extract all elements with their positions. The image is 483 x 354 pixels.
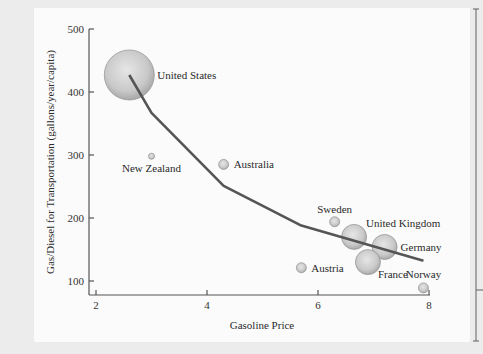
data-point-australia	[219, 159, 229, 169]
x-axis-title: Gasoline Price	[230, 319, 295, 331]
point-label: United States	[157, 69, 216, 81]
point-label: Germany	[401, 241, 442, 253]
data-point-united-kingdom	[342, 224, 367, 249]
y-ticks: 100200300400500	[68, 23, 95, 287]
point-label: France	[378, 268, 408, 280]
point-label: Austria	[311, 262, 344, 274]
x-tick-label: 2	[93, 299, 99, 311]
x-tick-label: 4	[204, 299, 210, 311]
x-tick-label: 6	[315, 299, 321, 311]
point-label: New Zealand	[122, 162, 181, 174]
y-tick-label: 100	[68, 275, 85, 287]
data-point-france	[355, 250, 380, 275]
point-label: United Kingdom	[366, 217, 441, 229]
y-tick-label: 400	[68, 86, 85, 98]
data-point-new-zealand	[149, 153, 155, 159]
right-bracket-line	[473, 9, 483, 341]
point-label: Sweden	[317, 203, 352, 215]
point-label: Norway	[406, 268, 442, 280]
scatter-chart: 100200300400500 2468 Gasoline Price Gas/…	[0, 0, 483, 354]
y-tick-label: 500	[68, 23, 85, 35]
y-axis-title: Gas/Diesel for Transportation (gallons/y…	[44, 50, 57, 274]
x-ticks: 2468	[93, 290, 432, 311]
data-point-norway	[418, 283, 428, 293]
y-tick-label: 200	[68, 212, 85, 224]
x-tick-label: 8	[426, 299, 432, 311]
data-point-sweden	[330, 217, 340, 227]
y-tick-label: 300	[68, 149, 85, 161]
data-point-austria	[296, 263, 306, 273]
point-label: Australia	[234, 158, 274, 170]
